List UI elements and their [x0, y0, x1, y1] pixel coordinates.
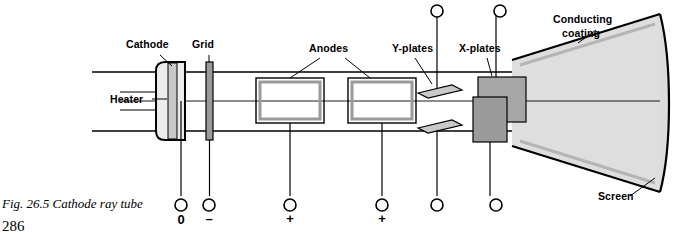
figure-cathode-ray-tube: Cathode Grid Anodes Y-plates X-plates Co… [0, 0, 675, 244]
label-heater: Heater [110, 93, 143, 105]
label-conducting-coating-line1: Conducting [553, 13, 612, 25]
terminal-anode2-plus: + [373, 211, 391, 226]
grid-electrode [206, 62, 213, 196]
terminal-heater-zero: 0 [172, 212, 190, 227]
label-grid: Grid [192, 38, 214, 50]
label-cathode: Cathode [126, 38, 169, 50]
label-conducting-coating-line2: coating [562, 27, 600, 39]
page-number: 286 [2, 218, 25, 235]
label-anodes: Anodes [309, 42, 348, 54]
label-x-plates: X-plates [459, 42, 501, 54]
anode-2 [348, 78, 416, 196]
y-plates [418, 85, 462, 133]
label-screen: Screen [598, 190, 634, 202]
terminal-grid-minus: – [200, 211, 218, 226]
terminal-anode1-plus: + [281, 211, 299, 226]
figure-caption: Fig. 26.5 Cathode ray tube [2, 196, 143, 212]
terminal-circles [175, 5, 506, 211]
label-y-plates: Y-plates [392, 42, 433, 54]
tube-cone [512, 14, 669, 192]
anode-1 [256, 78, 324, 196]
